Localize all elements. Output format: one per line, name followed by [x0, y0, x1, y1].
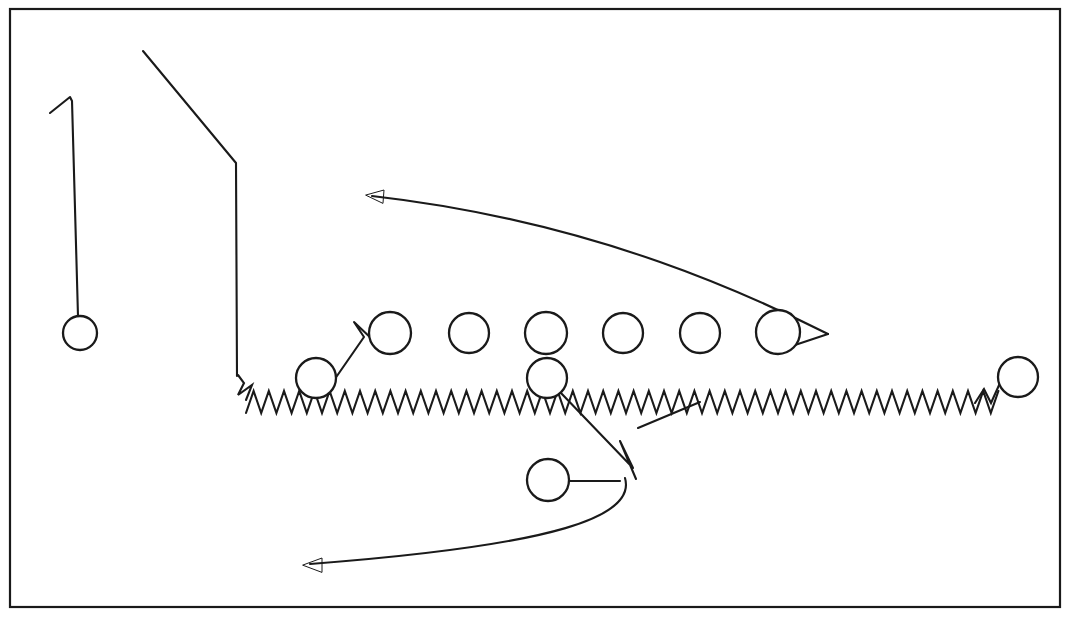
lineman-2[interactable]: [449, 313, 489, 353]
lineman-5[interactable]: [680, 313, 720, 353]
player-far-left[interactable]: [63, 316, 97, 350]
player-deep-back[interactable]: [527, 459, 569, 501]
bottom-curved-arrow: [310, 478, 626, 564]
diagram-svg: [0, 0, 1070, 617]
player-far-right[interactable]: [998, 357, 1038, 397]
bottom-arrow-head: [303, 558, 322, 572]
zigzag-lead-in: [238, 375, 252, 400]
top-curved-arrow: [372, 196, 828, 334]
far-left-stem-route: [50, 97, 78, 316]
diagram-border: [10, 9, 1060, 607]
lineman-4[interactable]: [603, 313, 643, 353]
lineman-6[interactable]: [756, 310, 800, 354]
long-diagonal-route: [143, 51, 237, 376]
player-left-slot[interactable]: [296, 358, 336, 398]
lineman-1[interactable]: [369, 312, 411, 354]
player-center-back[interactable]: [527, 358, 567, 398]
routes-layer: [50, 51, 828, 572]
line-of-scrimmage-layer: [238, 375, 1000, 413]
lineman-3[interactable]: [525, 312, 567, 354]
zigzag-line: [246, 391, 998, 413]
play-diagram-canvas: [0, 0, 1070, 617]
players-layer: [63, 310, 1038, 501]
